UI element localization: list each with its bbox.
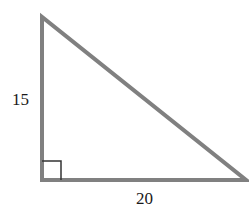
right-triangle xyxy=(42,17,246,180)
diagram-canvas: 15 20 xyxy=(0,0,249,215)
triangle-figure xyxy=(0,0,249,215)
vertical-leg-label: 15 xyxy=(12,91,29,108)
right-angle-marker xyxy=(42,161,61,180)
horizontal-leg-label: 20 xyxy=(136,190,153,207)
